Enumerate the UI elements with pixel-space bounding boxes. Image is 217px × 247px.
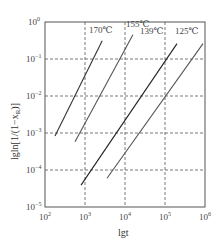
x-tick-6: 106 [199, 211, 211, 222]
chart: 170℃ 155℃ 139℃ 125℃ 100 10−1 10−2 10−3 1… [0, 0, 217, 247]
y-tick-2: 10−2 [26, 90, 41, 101]
x-tick-3: 103 [79, 211, 91, 222]
series-label-125: 125℃ [175, 26, 199, 36]
series-line-2 [81, 44, 177, 186]
y-tick-4: 10−4 [26, 164, 41, 175]
y-axis-title: lgln[1/(1−xR)] [9, 103, 22, 160]
series-lines [55, 35, 203, 185]
x-axis-title: lgt [118, 227, 129, 238]
x-axis-ticks: 102 103 104 105 106 [39, 211, 211, 222]
x-tick-4: 104 [119, 211, 131, 222]
x-tick-2: 102 [39, 211, 51, 222]
series-label-170: 170℃ [89, 25, 113, 35]
y-axis-ticks: 100 10−1 10−2 10−3 10−4 10−5 [26, 16, 41, 212]
series-line-3 [107, 44, 203, 179]
series-line-1 [75, 35, 133, 142]
series-label-139: 139℃ [140, 26, 164, 36]
y-tick-1: 10−1 [26, 53, 41, 64]
x-tick-5: 105 [159, 211, 171, 222]
y-tick-5: 10−5 [26, 201, 41, 212]
y-tick-3: 10−3 [26, 127, 41, 138]
y-tick-0: 100 [28, 16, 40, 27]
series-line-0 [55, 41, 102, 136]
